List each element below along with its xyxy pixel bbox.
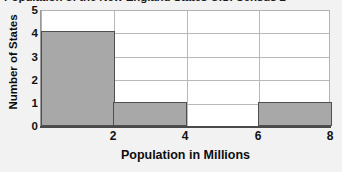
- x-tick-4: 4: [172, 130, 198, 143]
- x-tick-6: 6: [245, 130, 271, 143]
- histogram-figure: Population of the New England States U.S…: [0, 0, 342, 172]
- y-tick-2: 2: [18, 75, 38, 86]
- x-axis-line: [40, 126, 331, 128]
- bar-bin-0-2: [41, 31, 115, 126]
- chart-title: Population of the New England States U.S…: [4, 0, 342, 5]
- y-tick-0: 0: [18, 121, 38, 132]
- y-tick-5: 5: [18, 5, 38, 16]
- plot-area: [41, 10, 330, 127]
- y-tick-4: 4: [18, 28, 38, 39]
- y-axis-tick-labels: 5 4 3 2 1 0: [14, 0, 38, 172]
- bar-bin-2-4: [113, 102, 187, 126]
- y-tick-3: 3: [18, 52, 38, 63]
- bar-bin-6-8: [258, 102, 332, 126]
- y-tick-1: 1: [18, 98, 38, 109]
- x-axis-title: Population in Millions: [41, 148, 330, 162]
- x-tick-2: 2: [100, 130, 126, 143]
- x-tick-8: 8: [317, 130, 342, 143]
